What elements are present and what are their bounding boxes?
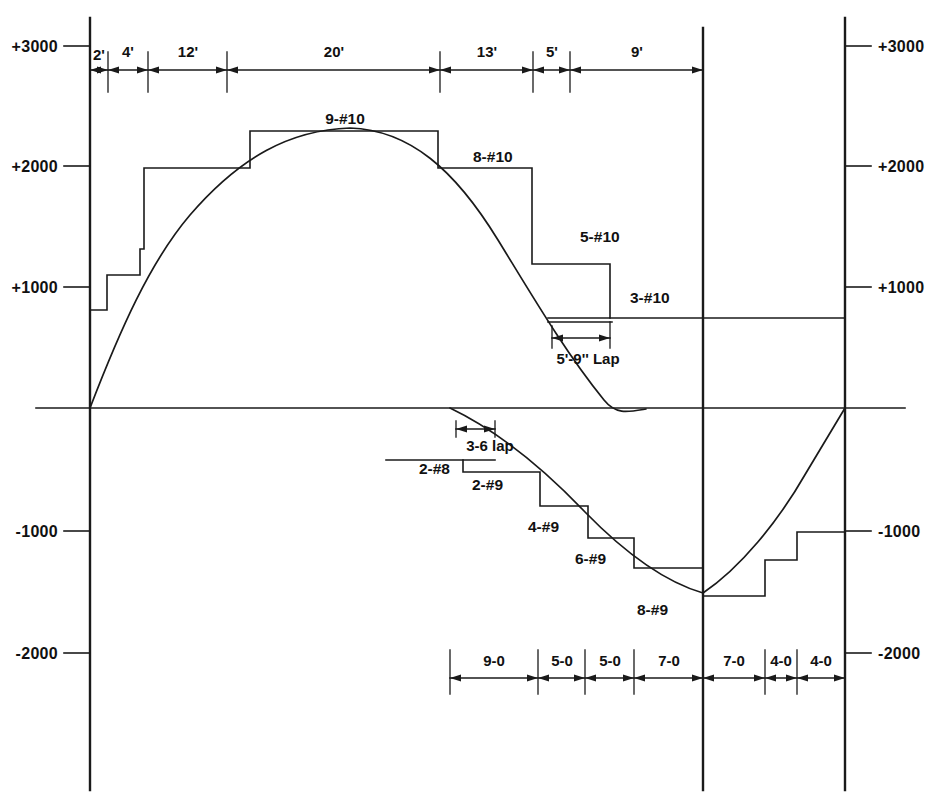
right-axis-label-1000: +1000 — [878, 279, 924, 296]
bottom-dimension-string: 9-0 5-0 5-0 7-0 7-0 4-0 4-0 — [450, 650, 845, 694]
bottom-dim-label-0: 9-0 — [483, 652, 505, 669]
top-dim-label-1: 4' — [122, 43, 134, 60]
positive-steel-step-profile — [90, 131, 610, 318]
bottom-dim-label-5: 4-0 — [770, 652, 792, 669]
left-axis-label-2000: +2000 — [12, 158, 58, 175]
right-axis-label-minus1000: -1000 — [878, 523, 920, 540]
support-lines — [90, 18, 845, 790]
right-axis-label-3000: +3000 — [878, 38, 924, 55]
bottom-dim-label-4: 7-0 — [723, 652, 745, 669]
top-dimension-string: 2' 4' 12' 20' 13' 5' 9' — [90, 43, 703, 92]
top-dim-label-4: 13' — [477, 43, 497, 60]
left-axis-label-minus1000: -1000 — [16, 523, 58, 540]
bottom-lap-label: 3-6 lap — [466, 437, 514, 454]
top-dim-label-0: 2' — [93, 46, 105, 63]
top-lap-label: 5'-9'' Lap — [556, 350, 619, 367]
top-lap-dimension: 5'-9'' Lap — [552, 322, 620, 367]
bar-label-2-9: 2-#9 — [472, 476, 503, 493]
bottom-dim-label-6: 4-0 — [810, 652, 832, 669]
bottom-dim-label-2: 5-0 — [599, 652, 621, 669]
right-axis-label-minus2000: -2000 — [878, 645, 920, 662]
negative-steel-step-profile — [463, 460, 845, 596]
bar-label-3-10: 3-#10 — [630, 289, 670, 306]
left-axis-label-3000: +3000 — [12, 38, 58, 55]
top-dim-label-5: 5' — [546, 43, 558, 60]
left-axis: +3000 +2000 +1000 -1000 -2000 — [12, 38, 90, 662]
right-axis-label-2000: +2000 — [878, 158, 924, 175]
left-axis-label-1000: +1000 — [12, 279, 58, 296]
right-axis: +3000 +2000 +1000 -1000 -2000 — [845, 38, 924, 662]
bar-label-8-10: 8-#10 — [473, 148, 513, 165]
bar-label-5-10: 5-#10 — [580, 228, 620, 245]
bottom-dim-label-1: 5-0 — [551, 652, 573, 669]
top-dim-label-6: 9' — [631, 43, 643, 60]
bottom-lap-dimension: 3-6 lap — [456, 421, 514, 454]
bar-label-2-8: 2-#8 — [419, 460, 450, 477]
moment-envelope-figure: +3000 +2000 +1000 -1000 -2000 +3000 +200… — [0, 0, 939, 807]
bottom-dim-label-3: 7-0 — [658, 652, 680, 669]
bar-label-6-9: 6-#9 — [575, 550, 606, 567]
bar-label-9-10: 9-#10 — [325, 110, 365, 127]
left-axis-label-minus2000: -2000 — [16, 645, 58, 662]
positive-moment-curve — [90, 128, 646, 411]
top-dim-label-3: 20' — [324, 43, 344, 60]
negative-moment-curve-right — [703, 408, 845, 593]
top-dim-label-2: 12' — [178, 43, 198, 60]
bar-label-4-9: 4-#9 — [528, 518, 559, 535]
bar-label-8-9: 8-#9 — [637, 601, 668, 618]
